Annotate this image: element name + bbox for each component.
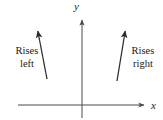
x-axis-label: x	[151, 100, 156, 111]
rises-right-label: Rises right	[120, 44, 163, 70]
rises-right-label-line1: Rises	[120, 44, 163, 57]
rises-right-label-line2: right	[120, 57, 163, 70]
rises-left-label-line1: Rises	[4, 44, 50, 57]
rises-left-label: Rises left	[4, 44, 50, 70]
rises-left-label-line2: left	[4, 57, 50, 70]
math-figure-end-behavior: y x Rises left Rises right	[0, 0, 163, 120]
y-axis-label: y	[74, 1, 79, 12]
